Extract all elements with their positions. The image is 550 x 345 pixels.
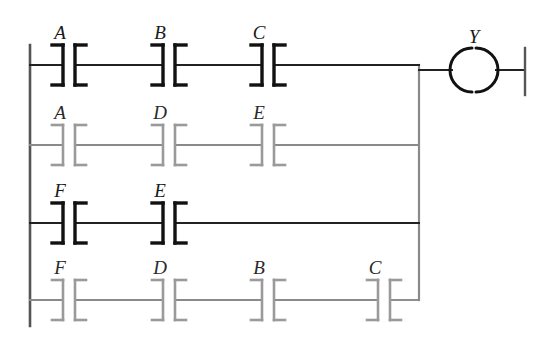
contact-d[interactable]: D — [152, 102, 186, 165]
coil-right-arc — [476, 48, 498, 92]
contact-b[interactable]: B — [152, 22, 186, 85]
contact-label-d: D — [152, 102, 167, 123]
ladder-diagram-canvas: ABCADEFEFDBCY — [0, 0, 550, 345]
contact-a[interactable]: A — [52, 22, 86, 85]
contact-b[interactable]: B — [251, 257, 285, 320]
contact-label-b: B — [154, 22, 166, 43]
contact-label-b: B — [253, 257, 265, 278]
contact-label-e: E — [153, 180, 166, 201]
contact-a[interactable]: A — [52, 102, 86, 165]
contact-label-a: A — [52, 102, 66, 123]
rung-2: ADE — [30, 102, 419, 165]
contact-d[interactable]: D — [152, 257, 186, 320]
contact-label-e: E — [252, 102, 265, 123]
contact-label-f: F — [53, 257, 66, 278]
contact-label-c: C — [369, 257, 382, 278]
coil-left-arc — [450, 48, 472, 92]
contact-label-d: D — [152, 257, 167, 278]
contact-f[interactable]: F — [52, 257, 86, 320]
contact-e[interactable]: E — [152, 180, 186, 243]
rung-4: FDBC — [30, 257, 419, 320]
rung-3: FE — [30, 180, 419, 243]
contact-c[interactable]: C — [251, 22, 285, 85]
coil-label-y: Y — [469, 26, 482, 47]
rung-1: ABC — [30, 22, 419, 85]
ladder-logic-diagram: ABCADEFEFDBCY — [0, 0, 550, 345]
contact-label-f: F — [53, 180, 66, 201]
contact-e[interactable]: E — [251, 102, 285, 165]
contact-f[interactable]: F — [52, 180, 86, 243]
contact-label-c: C — [253, 22, 266, 43]
contact-c[interactable]: C — [367, 257, 401, 320]
output-coil-y[interactable]: Y — [419, 26, 525, 92]
contact-label-a: A — [52, 22, 66, 43]
